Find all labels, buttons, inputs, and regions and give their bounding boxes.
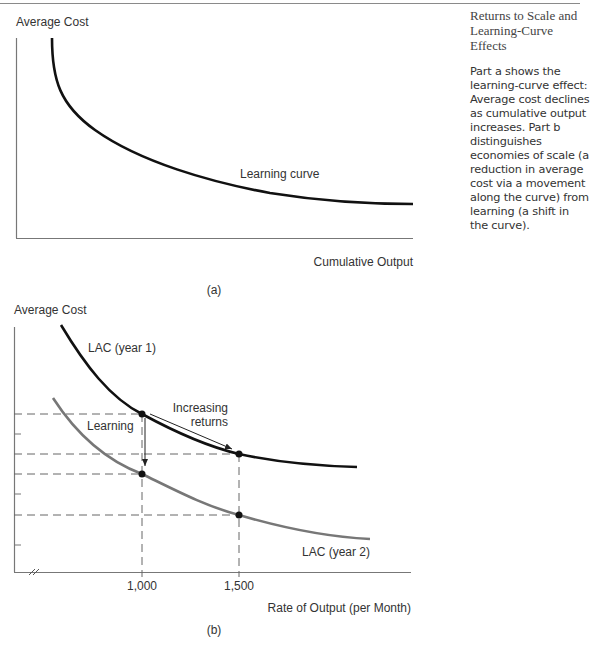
panel-a-xlabel: Cumulative Output: [314, 255, 414, 269]
panel-b-xlabel: Rate of Output (per Month): [268, 601, 411, 615]
panel-a-label: (a): [207, 283, 222, 297]
x-tick-label-1500: 1,500: [224, 579, 254, 593]
point-year1-1500: [236, 451, 243, 458]
panel-a: Average Cost Learning curve Cumulative O…: [16, 15, 414, 297]
lac-year1-label: LAC (year 1): [88, 341, 156, 355]
point-year2-1500: [236, 512, 243, 519]
point-year1-1000: [139, 411, 146, 418]
panel-b: Average Cost: [14, 303, 411, 637]
lac-year2-label: LAC (year 2): [302, 545, 370, 559]
x-tick-label-1000: 1,000: [127, 579, 157, 593]
learning-label: Learning: [87, 419, 134, 433]
learning-curve-label: Learning curve: [240, 167, 320, 181]
figure-charts: Average Cost Learning curve Cumulative O…: [0, 0, 590, 652]
learning-curve-line: [52, 38, 413, 204]
panel-b-label: (b): [207, 623, 222, 637]
increasing-returns-label-1: Increasing: [173, 401, 228, 415]
point-year2-1000: [139, 471, 146, 478]
panel-a-ylabel: Average Cost: [16, 15, 89, 29]
panel-b-ylabel: Average Cost: [14, 303, 87, 317]
increasing-returns-label-2: returns: [191, 415, 228, 429]
